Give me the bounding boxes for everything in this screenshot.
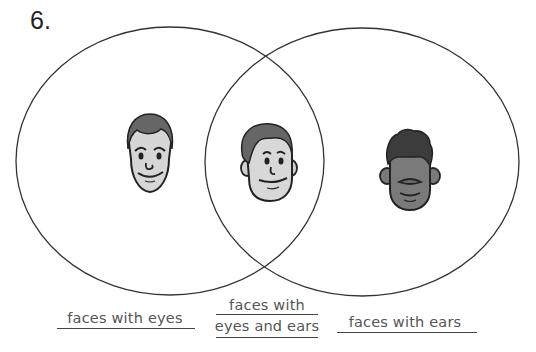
label-faces-with-eyes: faces with eyes <box>60 310 190 326</box>
face-eyes-no-ears-icon <box>127 114 172 192</box>
face-ears-no-eyes-icon <box>380 130 440 210</box>
answer-line-middle-top <box>216 314 318 315</box>
answer-line-middle-bottom <box>216 337 318 338</box>
label-intersection-line1: faces with <box>215 297 319 313</box>
face-eyes-and-ears-icon <box>241 124 297 201</box>
label-faces-with-ears: faces with ears <box>340 314 470 330</box>
answer-line-left <box>57 328 195 329</box>
label-intersection-line2: eyes and ears <box>213 318 321 334</box>
answer-line-right <box>337 332 477 333</box>
